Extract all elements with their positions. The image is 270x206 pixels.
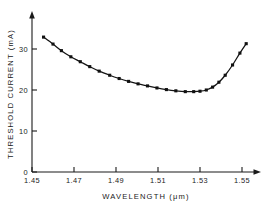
y-axis-arrow-icon <box>29 11 35 19</box>
x-tick-label-147: 1.47 <box>66 176 82 185</box>
data-point <box>224 74 227 77</box>
x-axis-title: WAVELENGTH (μm) <box>102 192 189 201</box>
data-point <box>205 88 208 91</box>
x-tick-label-153: 1.53 <box>192 176 208 185</box>
data-point <box>146 84 149 87</box>
data-point <box>98 70 101 73</box>
data-point <box>165 88 168 91</box>
data-point <box>217 81 220 84</box>
x-tick-label-155: 1.55 <box>234 176 250 185</box>
data-point <box>238 52 241 55</box>
y-axis-tick-labels: 0 10 20 30 <box>19 45 28 177</box>
figure-container: 0 10 20 30 1.45 1.47 1.49 1.51 1.53 1.55… <box>0 0 270 206</box>
data-point <box>245 42 248 45</box>
y-tick-label-10: 10 <box>19 127 28 136</box>
data-point <box>137 82 140 85</box>
data-point <box>127 80 130 83</box>
data-point <box>118 77 121 80</box>
data-point <box>79 60 82 63</box>
y-axis-ticks <box>32 49 37 172</box>
y-tick-label-20: 20 <box>19 86 28 95</box>
data-point <box>198 90 201 93</box>
x-axis-tick-labels: 1.45 1.47 1.49 1.51 1.53 1.55 <box>24 176 250 185</box>
x-axis-ticks <box>32 167 242 172</box>
threshold-current-vs-wavelength-chart: 0 10 20 30 1.45 1.47 1.49 1.51 1.53 1.55… <box>0 0 270 206</box>
data-point <box>69 55 72 58</box>
data-point <box>88 65 91 68</box>
data-point <box>60 49 63 52</box>
data-point <box>211 86 214 89</box>
data-point <box>155 86 158 89</box>
data-point <box>174 89 177 92</box>
data-point <box>184 90 187 93</box>
data-point <box>192 90 195 93</box>
data-point <box>42 36 45 39</box>
y-axis <box>29 11 35 172</box>
x-axis <box>32 169 261 175</box>
y-tick-label-30: 30 <box>19 45 28 54</box>
x-axis-arrow-icon <box>254 169 262 175</box>
x-tick-label-149: 1.49 <box>108 176 124 185</box>
x-tick-label-151: 1.51 <box>150 176 166 185</box>
y-axis-title: THRESHOLD CURRENT (mA) <box>6 29 15 159</box>
x-tick-label-145: 1.45 <box>24 176 40 185</box>
data-point <box>108 74 111 77</box>
data-point <box>231 63 234 66</box>
data-point <box>51 43 54 46</box>
data-curve <box>44 37 247 92</box>
